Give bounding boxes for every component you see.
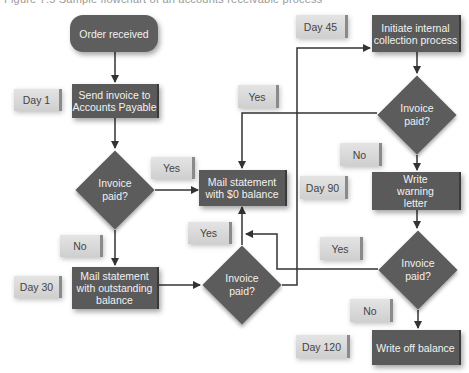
node-label: Write off balance	[376, 342, 454, 354]
node-label: Invoice paid?	[395, 102, 439, 128]
tag-day-30: Day 30	[14, 276, 62, 298]
node-label: Invoice paid?	[396, 257, 440, 283]
process-initiate-collection: Initiate internal collection process	[372, 15, 461, 52]
tag-day-120: Day 120	[296, 335, 350, 358]
process-mail-outstanding-balance: Mail statement with outstanding balance	[72, 267, 159, 309]
process-write-warning-letter: Write warning letter	[372, 172, 461, 210]
tag-yes-4: Yes	[320, 237, 363, 260]
process-write-off-balance: Write off balance	[372, 330, 461, 365]
node-label: Send invoice to Accounts Payable	[72, 89, 157, 113]
decision-invoice-paid-3: Invoice paid?	[377, 75, 457, 155]
node-label: Write warning letter	[386, 173, 446, 209]
node-label: Invoice paid?	[93, 177, 137, 203]
tag-yes-2: Yes	[188, 222, 232, 244]
node-label: Mail statement with outstanding balance	[72, 270, 157, 306]
node-label: Order received	[79, 28, 148, 40]
decision-invoice-paid-4: Invoice paid?	[378, 230, 458, 310]
node-label: Mail statement with $0 balance	[199, 176, 285, 200]
process-mail-zero-balance: Mail statement with $0 balance	[199, 170, 287, 206]
decision-invoice-paid-1: Invoice paid?	[75, 150, 155, 230]
decision-invoice-paid-2: Invoice paid?	[202, 245, 282, 325]
node-label: Invoice paid?	[220, 272, 264, 298]
tag-day-90: Day 90	[300, 176, 348, 199]
tag-day-45: Day 45	[296, 15, 348, 38]
tag-day-1: Day 1	[14, 89, 62, 111]
tag-yes-1: Yes	[151, 157, 195, 179]
tag-no-1: No	[60, 235, 103, 257]
tag-yes-3: Yes	[238, 85, 279, 108]
process-send-invoice: Send invoice to Accounts Payable	[72, 84, 159, 118]
start-node-order-received: Order received	[70, 15, 158, 52]
tag-no-3: No	[340, 143, 382, 166]
tag-no-4: No	[350, 299, 393, 322]
node-label: Initiate internal collection process	[372, 22, 459, 46]
